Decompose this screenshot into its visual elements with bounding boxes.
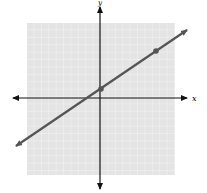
point-0-1 [98,86,104,92]
y-axis-label: y [97,0,103,7]
coordinate-plane: x y [0,0,207,193]
grid [27,23,175,175]
x-axis-label: x [192,94,197,103]
point-7-6 [153,48,159,54]
